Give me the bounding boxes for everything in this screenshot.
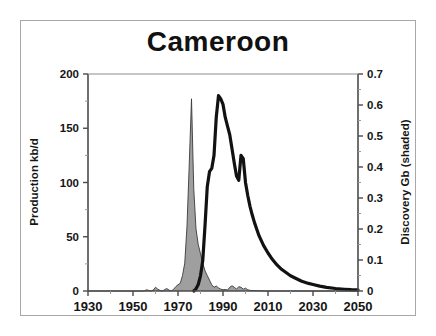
right-tick-label: 0.1 — [367, 254, 384, 266]
x-tick-label: 1990 — [209, 299, 238, 314]
left-tick-label: 0 — [73, 285, 79, 297]
right-tick-label: 0.7 — [367, 68, 383, 80]
x-tick-label: 2010 — [254, 299, 283, 314]
left-tick-label: 100 — [60, 177, 79, 189]
right-tick-label: 0.4 — [367, 161, 384, 173]
left-tick-label: 150 — [60, 122, 79, 134]
chart-figure: Cameroon 050100150200 00.10.20.30.40.50.… — [0, 0, 436, 336]
left-tick-label: 50 — [66, 231, 79, 243]
x-tick-label: 1970 — [164, 299, 193, 314]
x-tick-label: 1930 — [74, 299, 103, 314]
right-tick-label: 0.5 — [367, 130, 384, 142]
right-axis-ticks: 00.10.20.30.40.50.60.7 — [358, 68, 384, 297]
right-tick-label: 0 — [367, 285, 373, 297]
bottom-axis-ticks: 1930195019701990201020302050 — [74, 291, 373, 314]
chart-plot-area: 050100150200 00.10.20.30.40.50.60.7 1930… — [0, 0, 436, 336]
right-axis-title: Discovery Gb (shaded) — [399, 119, 411, 244]
right-tick-label: 0.2 — [367, 223, 383, 235]
x-tick-label: 1950 — [119, 299, 148, 314]
x-tick-label: 2030 — [299, 299, 328, 314]
left-tick-label: 200 — [60, 68, 79, 80]
right-tick-label: 0.3 — [367, 192, 383, 204]
left-axis-ticks: 050100150200 — [60, 68, 88, 297]
x-tick-label: 2050 — [344, 299, 373, 314]
right-tick-label: 0.6 — [367, 99, 383, 111]
left-axis-title: Production kb/d — [28, 138, 40, 226]
